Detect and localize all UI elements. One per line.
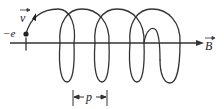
helix-loop-3-bottom [129,43,144,82]
helix-loop-4-top [130,9,180,43]
electron-dot [23,31,28,36]
helix-loop-4-bottom [160,43,180,83]
helix-loop-4-inner [144,29,160,60]
field-label: B [205,40,212,52]
helix-loop-2-bottom [94,43,109,82]
velocity-label: v [20,12,25,24]
helix-loop-3-top [95,9,144,43]
charge-label: −e [3,28,15,39]
field-arrow-head [196,40,204,46]
helix-loop-1-bottom [59,43,74,82]
helix-start-arc [26,9,74,43]
helix-diagram [0,0,224,109]
helix-loop-2-top [60,9,109,43]
pitch-label: p [86,91,92,103]
